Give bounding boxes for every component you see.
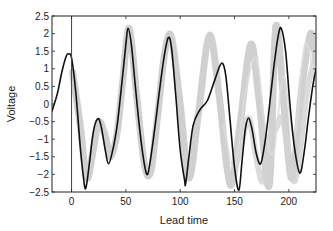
x-tick-label: 100 — [172, 196, 189, 207]
series-layer — [52, 25, 316, 190]
line-chart: 050100150200 2.521.510.50−0.5−1−1.5−2−2.… — [0, 0, 333, 231]
x-tick-label: 50 — [120, 196, 132, 207]
x-tick-label: 0 — [69, 196, 75, 207]
y-tick-label: 0.5 — [35, 81, 49, 92]
y-tick-label: −2.5 — [29, 187, 49, 198]
y-axis-label: Voltage — [5, 86, 17, 123]
y-tick-label: −1 — [38, 134, 50, 145]
x-tick-label: 200 — [280, 196, 297, 207]
y-tick-label: 1.5 — [35, 46, 49, 57]
y-tick-label: −1.5 — [29, 151, 49, 162]
y-tick-label: 1 — [43, 63, 49, 74]
x-axis-label: Lead time — [160, 214, 208, 226]
y-tick-label: −2 — [38, 169, 50, 180]
y-tick-label: 0 — [43, 99, 49, 110]
y-tick-label: −0.5 — [29, 116, 49, 127]
x-tick-label: 150 — [226, 196, 243, 207]
y-tick-label: 2.5 — [35, 11, 49, 22]
y-tick-label: 2 — [43, 28, 49, 39]
